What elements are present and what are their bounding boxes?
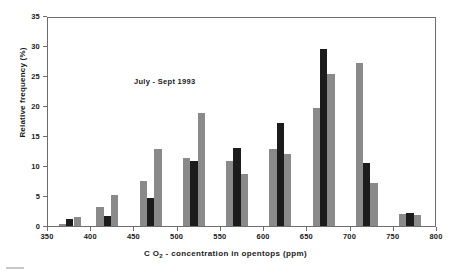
x-tick-mark xyxy=(90,227,91,231)
x-tick-label: 800 xyxy=(429,232,442,241)
x-tick-mark xyxy=(350,227,351,231)
bar xyxy=(66,219,73,226)
y-tick-label: 5 xyxy=(36,192,40,201)
y-tick-label: 35 xyxy=(31,12,40,21)
x-tick-mark xyxy=(47,227,48,231)
bar xyxy=(140,181,147,226)
bar xyxy=(233,148,240,226)
x-tick-mark xyxy=(393,227,394,231)
bar xyxy=(370,183,377,226)
bar xyxy=(241,174,248,226)
y-axis: 05101520253035 xyxy=(0,0,47,244)
bar xyxy=(96,207,103,226)
bar xyxy=(277,123,284,226)
x-axis: 350400450500550600650700750800 xyxy=(0,227,451,249)
y-tick-label: 20 xyxy=(31,102,40,111)
bar xyxy=(399,214,406,226)
chart-annotation-period: July - Sept 1993 xyxy=(134,77,196,86)
x-tick-label: 500 xyxy=(170,232,183,241)
x-tick-label: 650 xyxy=(300,232,313,241)
bar xyxy=(111,195,118,226)
bar xyxy=(154,149,161,226)
x-tick-mark xyxy=(436,227,437,231)
x-tick-mark xyxy=(220,227,221,231)
figure-histogram: Relative frequency (%) 05101520253035 Ju… xyxy=(0,0,451,274)
bar xyxy=(104,216,111,226)
x-tick-mark xyxy=(306,227,307,231)
bar xyxy=(198,113,205,226)
bars-layer xyxy=(48,18,435,226)
x-tick-label: 550 xyxy=(213,232,226,241)
x-tick-mark xyxy=(177,227,178,231)
bar xyxy=(147,198,154,226)
bar xyxy=(190,161,197,226)
bar xyxy=(327,74,334,226)
bar xyxy=(313,108,320,226)
y-tick-label: 10 xyxy=(31,162,40,171)
x-tick-label: 600 xyxy=(257,232,270,241)
caption-trace xyxy=(6,267,24,269)
plot-area: July - Sept 1993 xyxy=(47,17,436,227)
x-axis-title-rest: - concentration in opentops (ppm) xyxy=(163,249,307,258)
bar xyxy=(284,154,291,226)
x-tick-label: 400 xyxy=(84,232,97,241)
bar xyxy=(320,49,327,226)
bar xyxy=(59,224,66,226)
x-tick-label: 450 xyxy=(127,232,140,241)
x-tick-label: 750 xyxy=(386,232,399,241)
x-tick-mark xyxy=(263,227,264,231)
bar xyxy=(269,149,276,226)
x-axis-title: C O2 - concentration in opentops (ppm) xyxy=(0,249,451,259)
y-tick-label: 15 xyxy=(31,132,40,141)
bar xyxy=(414,215,421,226)
bar xyxy=(363,163,370,226)
y-tick-label: 25 xyxy=(31,72,40,81)
x-tick-label: 700 xyxy=(343,232,356,241)
x-tick-mark xyxy=(133,227,134,231)
x-axis-title-co: C O xyxy=(144,249,159,258)
x-tick-label: 350 xyxy=(40,232,53,241)
bar xyxy=(406,213,413,226)
bar xyxy=(226,161,233,226)
y-tick-label: 30 xyxy=(31,42,40,51)
bar xyxy=(356,63,363,226)
bar xyxy=(183,158,190,226)
bar xyxy=(74,217,81,226)
